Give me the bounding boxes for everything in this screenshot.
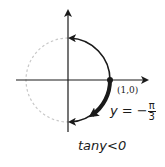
- fraction-denominator: 3: [148, 112, 156, 122]
- upper-arc-arrow: [70, 38, 110, 80]
- point-1-0-dot: [107, 77, 113, 83]
- point-label: (1,0): [117, 85, 138, 95]
- fraction: π3: [148, 101, 156, 122]
- highlight-arc-neg-pi-over-3: [92, 80, 110, 115]
- tangent-condition: tany<0: [78, 138, 126, 153]
- angle-equation: y = −π3: [110, 101, 156, 122]
- equation-lhs: y = −: [110, 103, 148, 118]
